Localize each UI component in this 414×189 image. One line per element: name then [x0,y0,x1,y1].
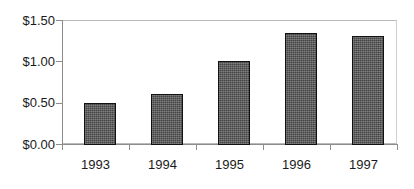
bar-1994 [151,94,183,145]
bar-1996 [285,33,317,145]
bar-1997 [352,36,384,145]
bar-1995 [218,61,250,145]
x-axis-tick-4 [330,144,331,150]
x-axis-tick-5 [397,144,398,150]
x-axis-label-1993: 1993 [62,158,129,172]
y-axis-label-2: $1.00 [3,55,55,68]
y-axis-label-0: $0.00 [3,138,55,151]
x-axis-label-1996: 1996 [263,158,330,172]
x-axis-label-1995: 1995 [196,158,263,172]
x-axis-tick-3 [263,144,264,150]
y-axis-labels: $1.50 $1.00 $0.50 $0.00 [0,0,55,189]
y-axis-label-3: $1.50 [3,14,55,27]
x-axis-tick-0 [62,144,63,150]
x-axis-label-1994: 1994 [129,158,196,172]
x-axis-tick-2 [196,144,197,150]
y-axis-line [62,20,63,145]
x-axis-label-1997: 1997 [330,158,397,172]
bar-chart: $1.50 $1.00 $0.50 $0.00 1993 1994 1995 1… [0,0,414,189]
bar-1993 [84,103,116,145]
y-axis-label-1: $0.50 [3,96,55,109]
x-axis-tick-1 [129,144,130,150]
